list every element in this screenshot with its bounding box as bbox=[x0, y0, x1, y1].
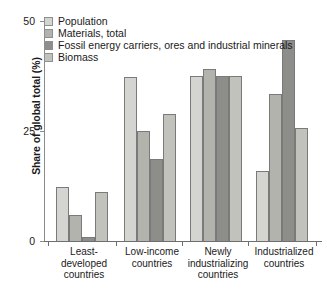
legend-label: Fossil energy carriers, ores and industr… bbox=[58, 40, 293, 51]
x-label-line: countries bbox=[47, 269, 121, 281]
bar bbox=[203, 69, 216, 241]
bar bbox=[95, 192, 108, 241]
x-label-line: Low-income bbox=[115, 246, 189, 258]
x-label-line: developed bbox=[47, 258, 121, 270]
legend-label: Biomass bbox=[58, 52, 98, 63]
y-tick-label: 50 bbox=[0, 16, 35, 27]
bar-chart: Share of global total (%) 02550 Least-de… bbox=[0, 0, 327, 291]
legend-swatch-icon bbox=[44, 17, 53, 26]
legend-swatch-icon bbox=[44, 53, 53, 62]
bar bbox=[69, 215, 82, 241]
x-axis-category-label: Newlyindustrializingcountries bbox=[181, 246, 255, 281]
bar bbox=[295, 128, 308, 241]
x-axis-labels: Least-developedcountriesLow-incomecountr… bbox=[44, 246, 322, 291]
x-axis-line bbox=[44, 241, 322, 242]
x-label-line: Least- bbox=[47, 246, 121, 258]
y-tick-label: 25 bbox=[0, 126, 35, 137]
bar bbox=[282, 40, 295, 241]
x-axis-category-label: Low-incomecountries bbox=[115, 246, 189, 269]
x-label-line: Newly bbox=[181, 246, 255, 258]
legend-item: Materials, total bbox=[44, 27, 324, 39]
bar bbox=[56, 187, 69, 241]
bar bbox=[190, 76, 203, 241]
legend-label: Population bbox=[58, 16, 108, 27]
legend-swatch-icon bbox=[44, 29, 53, 38]
bar bbox=[82, 237, 95, 241]
bar bbox=[163, 114, 176, 241]
legend-item: Fossil energy carriers, ores and industr… bbox=[44, 39, 324, 51]
bar bbox=[124, 77, 137, 241]
y-tick-mark bbox=[40, 131, 44, 132]
legend-item: Biomass bbox=[44, 52, 324, 64]
x-label-line: Industrialized bbox=[247, 246, 321, 258]
bar bbox=[229, 76, 242, 241]
y-tick-label: 0 bbox=[0, 236, 35, 247]
legend-item: Population bbox=[44, 15, 324, 27]
legend-label: Materials, total bbox=[58, 28, 126, 39]
chart-legend: PopulationMaterials, totalFossil energy … bbox=[44, 15, 324, 64]
x-label-line: countries bbox=[181, 269, 255, 281]
x-axis-category-label: Least-developedcountries bbox=[47, 246, 121, 281]
legend-swatch-icon bbox=[44, 41, 53, 50]
bar bbox=[137, 131, 150, 241]
x-label-line: industrializing bbox=[181, 258, 255, 270]
bar bbox=[150, 159, 163, 241]
x-axis-category-label: Industrializedcountries bbox=[247, 246, 321, 269]
x-label-line: countries bbox=[247, 258, 321, 270]
bar bbox=[269, 94, 282, 241]
y-tick-mark bbox=[40, 241, 44, 242]
bar bbox=[216, 76, 229, 241]
y-axis-title: Share of global total (%) bbox=[30, 21, 42, 211]
x-label-line: countries bbox=[115, 258, 189, 270]
bar bbox=[256, 171, 269, 241]
